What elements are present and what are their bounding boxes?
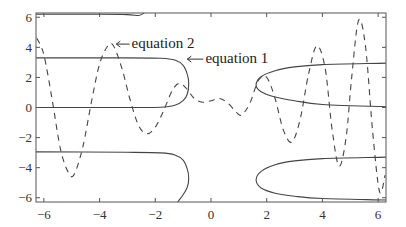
y-tick-label: 0 bbox=[26, 100, 33, 115]
x-tick-label: −6 bbox=[37, 207, 51, 222]
equation-2-line bbox=[37, 19, 385, 193]
y-tick-label: 2 bbox=[26, 70, 33, 85]
equation-1-branch-1 bbox=[36, 58, 189, 108]
x-tick-label: 2 bbox=[263, 207, 270, 222]
x-tick-label: −4 bbox=[93, 207, 107, 222]
y-tick-label: −4 bbox=[18, 160, 32, 175]
equation-1-branch-4 bbox=[256, 157, 386, 200]
annotations: equation 2equation 1 bbox=[116, 35, 268, 66]
x-tick-label: 4 bbox=[319, 207, 326, 222]
implicit-plot-chart: −6−4−20246 −6−4−20246 equation 2equation… bbox=[0, 0, 406, 227]
y-tick-label: −2 bbox=[18, 130, 32, 145]
annotation-arrow-icon bbox=[187, 56, 203, 62]
y-tick-label: 6 bbox=[26, 10, 33, 25]
y-tick-labels: −6−4−20246 bbox=[18, 10, 32, 205]
x-tick-label: −2 bbox=[148, 207, 162, 222]
equation-1-curves bbox=[36, 13, 386, 202]
y-tick-label: 4 bbox=[26, 40, 33, 55]
equation-1-branch-2 bbox=[36, 152, 189, 202]
annotation-label-1: equation 2 bbox=[132, 35, 195, 51]
x-tick-label: 6 bbox=[375, 207, 382, 222]
annotation-arrow-icon bbox=[116, 41, 129, 47]
equation-2-curve bbox=[37, 19, 385, 193]
y-tick-label: −6 bbox=[18, 190, 32, 205]
x-tick-label: 0 bbox=[208, 207, 215, 222]
x-tick-labels: −6−4−20246 bbox=[37, 207, 382, 222]
annotation-label-2: equation 1 bbox=[205, 50, 268, 66]
